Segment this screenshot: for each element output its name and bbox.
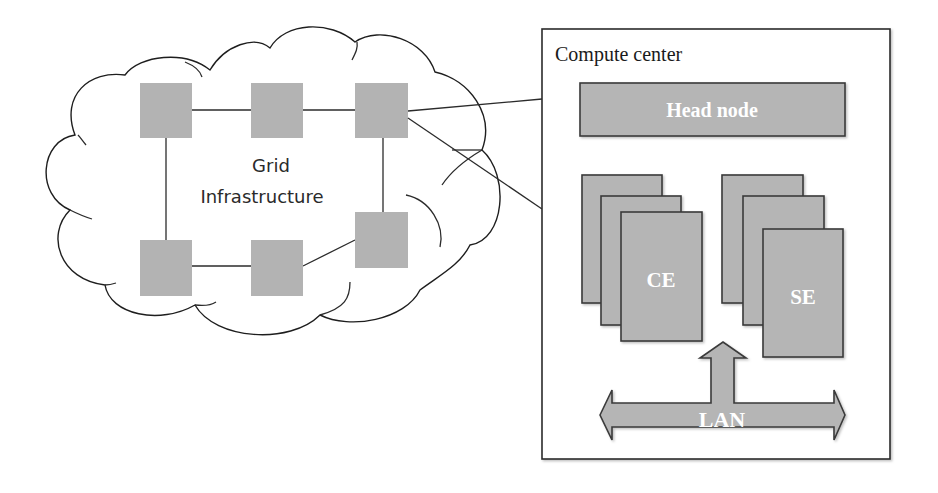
se-label: SE — [790, 285, 816, 309]
compute-center-title: Compute center — [555, 43, 683, 66]
grid-node — [355, 212, 408, 268]
grid-node — [140, 83, 192, 138]
grid-label-line1: Grid — [252, 155, 290, 176]
grid-node — [140, 240, 192, 296]
grid-node — [251, 83, 303, 138]
head-node-label: Head node — [666, 99, 758, 121]
grid-node — [251, 240, 303, 296]
grid-node — [355, 83, 408, 138]
grid-compute-diagram: Grid Infrastructure Compute center Head … — [0, 0, 938, 493]
grid-label-line2: Infrastructure — [200, 186, 323, 207]
ce-label: CE — [646, 268, 675, 292]
lan-label: LAN — [699, 407, 746, 432]
